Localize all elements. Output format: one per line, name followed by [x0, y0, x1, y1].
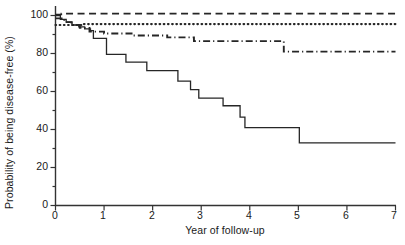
y-tick-marks: [51, 16, 56, 206]
survival-curves-group: [56, 14, 396, 143]
kaplan-meier-figure: Probability of being disease-free (%) Ye…: [0, 0, 405, 245]
curve-dashed-top: [56, 14, 396, 15]
curve-solid-lowest: [56, 16, 396, 143]
x-tick-marks: [56, 206, 396, 211]
curve-dotted: [56, 24, 396, 25]
axes-group: [51, 6, 397, 211]
plot-area: [0, 0, 405, 245]
